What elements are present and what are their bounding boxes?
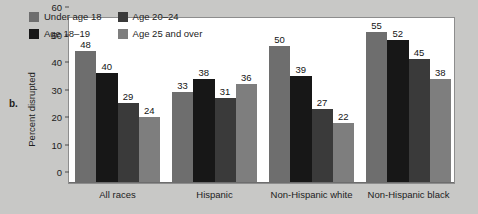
y-tick-0: 0 [40, 167, 69, 178]
bar-1-3: 29 [118, 18, 139, 183]
bar-rect [75, 51, 96, 183]
bar-value-label: 36 [241, 72, 252, 83]
bar-rect [430, 79, 451, 184]
legend-item-age-18-19: Age 18–19 [29, 26, 102, 41]
bar-rect [215, 98, 236, 183]
bar-group-non-hispanic-white: 50392722 [269, 18, 354, 183]
x-axis-label-non-hispanic-black: Non-Hispanic black [368, 189, 450, 200]
y-tick-mark [65, 117, 69, 118]
y-tick-mark [65, 144, 69, 145]
legend-label: Age 25 and over [133, 28, 203, 39]
y-tick-mark [65, 62, 69, 63]
bar-value-label: 29 [123, 91, 134, 102]
bar-rect [236, 84, 257, 183]
bar-4-2: 52 [387, 18, 408, 183]
bar-rect [96, 73, 117, 183]
bar-value-label: 31 [220, 86, 231, 97]
bar-rect [387, 40, 408, 183]
x-axis-label-non-hispanic-white: Non-Hispanic white [271, 189, 353, 200]
bar-value-label: 22 [338, 111, 349, 122]
bar-3-1: 50 [269, 18, 290, 183]
bar-4-4: 38 [430, 18, 451, 183]
bar-group-non-hispanic-black: 55524538 [366, 18, 451, 183]
x-axis-label-all-races: All races [99, 189, 135, 200]
y-axis-title: Percent disrupted [26, 60, 37, 160]
y-tick-10: 10 [40, 139, 69, 150]
bar-value-label: 33 [177, 80, 188, 91]
panel-letter-label: b. [9, 98, 18, 109]
y-tick-mark [65, 172, 69, 173]
bar-rect [269, 46, 290, 184]
bar-2-2: 38 [193, 18, 214, 183]
bar-rect [333, 123, 354, 184]
chart-legend: Under age 18Age 20–24Age 18–19Age 25 and… [29, 9, 202, 41]
bar-2-4: 36 [236, 18, 257, 183]
bar-value-label: 55 [371, 20, 382, 31]
y-tick-label: 30 [40, 84, 62, 95]
legend-swatch-icon [29, 29, 39, 39]
y-tick-mark [65, 89, 69, 90]
figure-panel-b: b. Percent disrupted 0102030405060 48402… [0, 0, 478, 214]
bar-rect [139, 117, 160, 183]
y-tick-label: 40 [40, 57, 62, 68]
bar-3-4: 22 [333, 18, 354, 183]
legend-label: Age 18–19 [44, 28, 90, 39]
bar-value-label: 52 [393, 28, 404, 39]
bar-value-label: 38 [199, 67, 210, 78]
y-tick-label: 10 [40, 139, 62, 150]
legend-swatch-icon [118, 29, 128, 39]
y-tick-20: 20 [40, 112, 69, 123]
y-tick-label: 20 [40, 112, 62, 123]
bar-value-label: 27 [317, 97, 328, 108]
y-tick-mark [65, 7, 69, 8]
bar-value-label: 50 [274, 34, 285, 45]
bar-rect [409, 59, 430, 183]
legend-item-age-20-24: Age 20–24 [118, 9, 203, 24]
bar-3-2: 39 [290, 18, 311, 183]
bar-rect [172, 92, 193, 183]
bar-1-4: 24 [139, 18, 160, 183]
x-axis-label-hispanic: Hispanic [196, 189, 232, 200]
bar-2-1: 33 [172, 18, 193, 183]
y-tick-label: 0 [40, 167, 62, 178]
bar-1-2: 40 [96, 18, 117, 183]
y-tick-40: 40 [40, 57, 69, 68]
bar-rect [193, 79, 214, 184]
bar-4-1: 55 [366, 18, 387, 183]
bar-rect [290, 76, 311, 183]
legend-swatch-icon [118, 12, 128, 22]
bar-rect [118, 103, 139, 183]
bar-4-3: 45 [409, 18, 430, 183]
plot-area: 0102030405060 48402924333831365039272255… [68, 17, 455, 184]
bar-3-3: 27 [312, 18, 333, 183]
legend-swatch-icon [29, 12, 39, 22]
bar-value-label: 39 [296, 64, 307, 75]
bar-2-3: 31 [215, 18, 236, 183]
bar-1-1: 48 [75, 18, 96, 183]
y-tick-30: 30 [40, 84, 69, 95]
bar-value-label: 45 [414, 47, 425, 58]
bar-value-label: 38 [435, 67, 446, 78]
x-axis-line [69, 182, 454, 183]
bar-value-label: 24 [144, 105, 155, 116]
bar-rect [312, 109, 333, 183]
bar-group-hispanic: 33383136 [172, 18, 257, 183]
legend-label: Age 20–24 [133, 11, 179, 22]
bar-rect [366, 32, 387, 183]
plot-inner: 0102030405060 48402924333831365039272255… [69, 18, 454, 183]
legend-item-under-age-18: Under age 18 [29, 9, 102, 24]
bar-group-all-races: 48402924 [75, 18, 160, 183]
bar-value-label: 40 [102, 61, 113, 72]
legend-label: Under age 18 [44, 11, 102, 22]
legend-item-age-25-and-over: Age 25 and over [118, 26, 203, 41]
